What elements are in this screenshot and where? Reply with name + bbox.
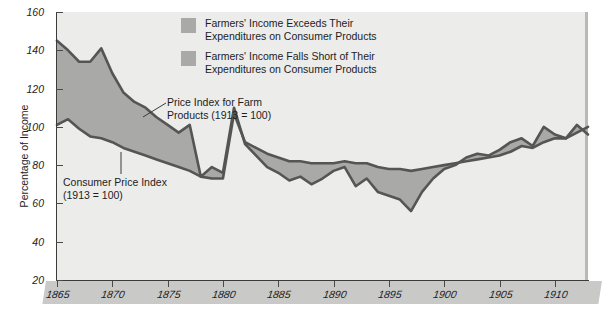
legend-label-income-falls-short: Farmers' Income Falls Short of Their Exp… — [205, 50, 377, 75]
x-axis-tick — [444, 281, 445, 287]
x-axis-band — [42, 281, 602, 304]
x-axis-tick — [334, 281, 335, 287]
annotation-farm-line1: Price Index for Farm — [167, 96, 271, 109]
x-axis-label: 1895 — [377, 288, 402, 300]
y-axis-title: Percentage of Income — [18, 86, 30, 226]
x-axis-label: 1870 — [101, 288, 126, 300]
annotation-consumer-price-index: Consumer Price Index (1913 = 100) — [63, 176, 167, 201]
legend-swatch-income-falls-short — [181, 51, 196, 66]
y-axis-tick — [56, 127, 63, 128]
annotation-farm-products: Price Index for Farm Products (1913 = 10… — [167, 96, 271, 121]
annotation-cpi-line1: Consumer Price Index — [63, 176, 167, 189]
x-axis-tick — [112, 281, 113, 287]
x-axis-tick — [57, 281, 58, 287]
y-axis-tick — [56, 12, 63, 13]
y-axis-label: 40 — [0, 236, 44, 248]
x-axis-label: 1865 — [45, 288, 70, 300]
y-axis-label: 140 — [0, 44, 44, 56]
x-axis-tick — [555, 281, 556, 287]
x-axis-tick — [500, 281, 501, 287]
x-axis-tick — [278, 281, 279, 287]
legend-label-income-exceeds: Farmers' Income Exceeds Their Expenditur… — [205, 17, 377, 42]
chart-root: 20406080100120140160 Percentage of Incom… — [0, 0, 609, 313]
legend-label-line1: Farmers' Income Exceeds Their — [205, 17, 377, 30]
x-axis-tick — [168, 281, 169, 287]
legend-label-line2: Expenditures on Consumer Products — [205, 63, 377, 76]
y-axis-tick — [56, 165, 63, 166]
annotation-cpi-line2: (1913 = 100) — [63, 189, 167, 202]
legend-swatch-income-exceeds — [181, 18, 196, 33]
x-axis-label: 1900 — [433, 288, 458, 300]
x-axis-label: 1885 — [267, 288, 292, 300]
x-axis-label: 1890 — [322, 288, 347, 300]
y-axis-tick — [56, 203, 63, 204]
legend-item-income-exceeds: Farmers' Income Exceeds Their Expenditur… — [181, 17, 411, 42]
y-axis-label: 160 — [0, 6, 44, 18]
y-axis-tick — [56, 50, 63, 51]
legend-label-line1: Farmers' Income Falls Short of Their — [205, 50, 377, 63]
legend-item-income-falls-short: Farmers' Income Falls Short of Their Exp… — [181, 50, 411, 75]
y-axis-line — [56, 12, 57, 281]
y-axis-tick — [56, 89, 63, 90]
y-axis-tick — [56, 242, 63, 243]
y-axis-label: 20 — [0, 274, 44, 286]
legend: Farmers' Income Exceeds Their Expenditur… — [181, 17, 411, 83]
x-axis-tick — [389, 281, 390, 287]
legend-label-line2: Expenditures on Consumer Products — [205, 30, 377, 43]
x-axis-label: 1875 — [156, 288, 181, 300]
annotation-farm-line2: Products (1913 = 100) — [167, 109, 271, 122]
x-axis-label: 1910 — [543, 288, 568, 300]
x-axis-label: 1880 — [211, 288, 236, 300]
x-axis-tick — [223, 281, 224, 287]
x-axis-label: 1905 — [488, 288, 513, 300]
